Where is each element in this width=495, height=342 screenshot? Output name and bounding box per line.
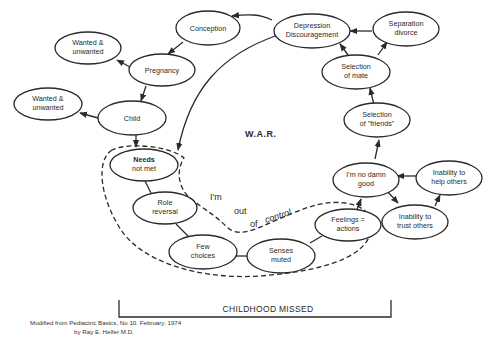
node-pregnancy: Pregnancy [129, 54, 195, 86]
control-word-im: I'm [210, 192, 222, 202]
node-im-no-damn-good: I'm no damn good [333, 163, 399, 197]
edge-conception-pregnancy [168, 42, 183, 54]
svg-text:actions: actions [337, 224, 360, 233]
svg-text:unwanted: unwanted [72, 47, 103, 56]
edge-nodamn-friends [375, 140, 379, 159]
svg-text:Pregnancy: Pregnancy [145, 66, 180, 75]
node-child: Child [98, 101, 166, 135]
edge-pregnancy-wanted1 [117, 60, 130, 67]
svg-text:unwanted: unwanted [32, 103, 63, 112]
node-selection-of-mate: Selection of mate [322, 55, 390, 89]
svg-text:I'm no damn: I'm no damn [346, 170, 385, 179]
svg-text:Inability to: Inability to [433, 168, 465, 177]
svg-text:Few: Few [196, 242, 210, 251]
node-feelings-actions: Feelings = actions [315, 209, 381, 241]
control-word-of: of [250, 219, 258, 229]
caption-line-1: Modified from Pediactric Basics, No 10, … [30, 319, 182, 326]
svg-text:Senses: Senses [269, 246, 293, 255]
svg-text:Needs: Needs [133, 155, 155, 164]
control-word-out: out [234, 206, 247, 216]
node-conception: Conception [176, 11, 240, 45]
edge-role-few [176, 224, 188, 236]
svg-text:help others: help others [431, 177, 467, 186]
node-depression: Depression Discouragement [274, 14, 350, 48]
svg-text:Wanted &: Wanted & [32, 94, 63, 103]
node-few-choices: Few choices [169, 235, 237, 269]
node-needs-not-met: Needs not met [110, 149, 178, 181]
svg-text:Child: Child [124, 114, 140, 123]
caption-line-2: by Ray E. Helfer M.D. [74, 328, 134, 335]
war-label: W.A.R. [245, 129, 277, 139]
svg-text:good: good [358, 179, 374, 188]
node-wanted-unwanted-1: Wanted & unwanted [55, 32, 121, 64]
node-inability-help-others: Inability to help others [416, 161, 482, 195]
edge-pregnancy-child [141, 86, 146, 101]
edge-mate-separation [378, 42, 387, 55]
svg-text:reversal: reversal [152, 207, 178, 216]
node-wanted-unwanted-2: Wanted & unwanted [14, 88, 82, 120]
svg-text:Conception: Conception [190, 24, 226, 33]
svg-text:trust others: trust others [397, 221, 433, 230]
svg-text:Inability to: Inability to [399, 212, 431, 221]
edge-mate-depression [340, 44, 348, 55]
svg-text:of mate: of mate [344, 71, 368, 80]
svg-text:not met: not met [132, 164, 156, 173]
childhood-missed-label: CHILDHOOD MISSED [223, 304, 314, 314]
control-word-control: control [264, 207, 294, 225]
svg-text:of "friends": of "friends" [360, 119, 395, 128]
war-cycle-diagram: Conception Depression Discouragement Sep… [0, 0, 495, 342]
edge-depression-conception [232, 15, 272, 20]
svg-text:divorce: divorce [394, 28, 417, 37]
edge-child-wanted2 [80, 113, 98, 118]
node-selection-of-friends: Selection of "friends" [344, 103, 410, 137]
svg-text:Selection: Selection [341, 62, 371, 71]
svg-text:Wanted &: Wanted & [72, 38, 103, 47]
svg-text:Feelings =: Feelings = [331, 215, 364, 224]
node-separation: Separation divorce [373, 12, 439, 46]
edge-needs-role [145, 181, 151, 193]
node-inability-trust-others: Inability to trust others [382, 205, 448, 239]
edge-senses-feelings [310, 236, 322, 243]
svg-text:Discouragement: Discouragement [286, 30, 338, 39]
svg-text:Selection: Selection [362, 110, 392, 119]
svg-text:choices: choices [191, 251, 216, 260]
svg-text:Depression: Depression [294, 21, 330, 30]
svg-text:Role: Role [158, 198, 173, 207]
node-role-reversal: Role reversal [133, 192, 197, 224]
node-senses-muted: Senses muted [247, 239, 315, 273]
svg-text:Separation: Separation [389, 19, 424, 28]
svg-text:muted: muted [271, 255, 291, 264]
edge-trust-helpothers [435, 195, 440, 206]
